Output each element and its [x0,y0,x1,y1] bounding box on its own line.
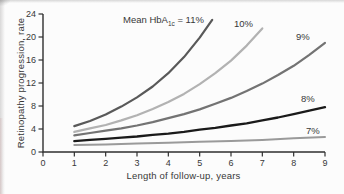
y-axis-title: Retinopathy progression, rate [15,0,29,168]
x-tick-label: 2 [103,158,108,168]
x-tick-label: 6 [228,158,233,168]
curve-label-9pct: 9% [296,31,310,42]
x-tick-label: 3 [134,158,139,168]
y-tick-label: 8 [31,101,36,111]
chart-canvas: 048121620240123456789 [0,0,344,194]
x-tick-label: 4 [166,158,171,168]
x-tick-label: 7 [260,158,265,168]
curve-label-8pct: 8% [301,93,315,104]
annotation-subscript: 1c [168,20,175,27]
annotation-prefix: Mean HbA [123,14,168,25]
y-tick-label: 0 [31,147,36,157]
curve-hba1c-11pct [74,20,212,126]
x-tick-label: 9 [322,158,327,168]
curve-label-10pct: 10% [234,18,253,29]
curve-hba1c-9pct [74,43,325,136]
x-tick-label: 1 [72,158,77,168]
figure: 048121620240123456789 Retinopathy progre… [0,0,344,194]
annotation-suffix: = 11% [175,14,204,25]
y-tick-label: 4 [31,124,36,134]
x-tick-label: 8 [291,158,296,168]
x-tick-label: 5 [197,158,202,168]
x-axis-title: Length of follow-up, years [42,170,325,182]
hba1c-annotation: Mean HbA1c = 11% [123,14,204,27]
curve-label-7pct: 7% [306,125,320,136]
x-tick-label: 0 [40,158,45,168]
